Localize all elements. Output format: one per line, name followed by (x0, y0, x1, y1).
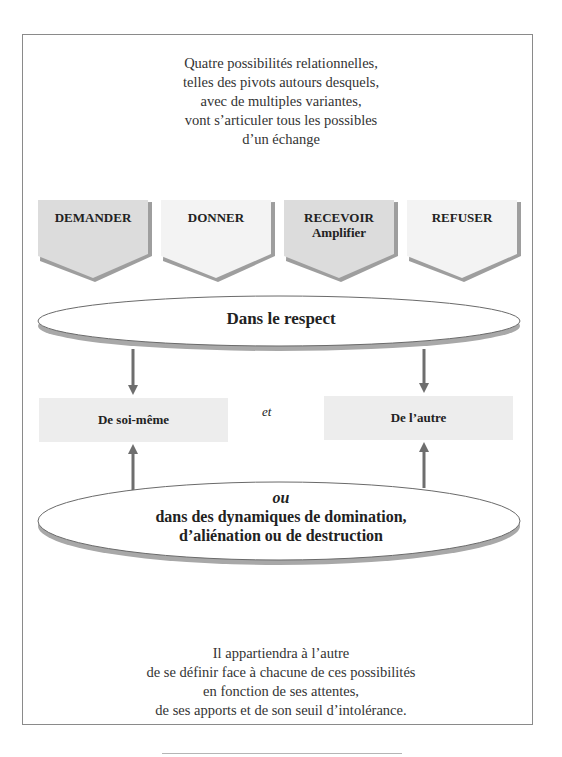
box-self: De soi-même (39, 398, 228, 442)
chevron-title: RECEVOIR (283, 210, 395, 225)
outro-line: en fonction de ses attentes, (0, 682, 562, 701)
chevron-label: DEMANDER (37, 210, 149, 225)
box-other: De l’autre (324, 396, 513, 440)
chevron-refuser: REFUSER (406, 198, 522, 282)
chevron-donner: DONNER (160, 198, 276, 282)
outro-line: de ses apports et de son seuil d’intolér… (0, 701, 562, 720)
ellipse-line: dans des dynamiques de domination, (36, 507, 526, 526)
chevron-subtitle: Amplifier (283, 225, 395, 240)
chevron-demander: DEMANDER (37, 198, 153, 282)
footer-rule (162, 753, 402, 754)
intro-line: telles des pivots autours desquels, (0, 73, 562, 92)
intro-text: Quatre possibilités relationnelles, tell… (0, 54, 562, 149)
arrow-down-icon (128, 349, 138, 395)
intro-line: vont s’articuler tous les possibles (0, 111, 562, 130)
intro-line: d’un échange (0, 130, 562, 149)
intro-line: avec de multiples variantes, (0, 92, 562, 111)
ellipse-line: d’aliénation ou de destruction (36, 526, 526, 545)
box-other-label: De l’autre (391, 410, 447, 426)
ellipse-prefix: ou (36, 488, 526, 507)
outro-line: de se définir face à chacune de ces poss… (0, 663, 562, 682)
chevron-label: RECEVOIR Amplifier (283, 210, 395, 240)
outro-text: Il appartiendra à l’autre de se définir … (0, 644, 562, 720)
ellipse-domination: ou dans des dynamiques de domination, d’… (36, 480, 526, 570)
ellipse-respect: Dans le respect (36, 294, 526, 356)
chevron-label: REFUSER (406, 210, 518, 225)
connector-et: et (262, 404, 271, 420)
ellipse-title: Dans le respect (36, 309, 526, 329)
intro-line: Quatre possibilités relationnelles, (0, 54, 562, 73)
outro-line: Il appartiendra à l’autre (0, 644, 562, 663)
chevron-recevoir: RECEVOIR Amplifier (283, 198, 399, 282)
arrow-down-icon (419, 349, 429, 393)
chevron-label: DONNER (160, 210, 272, 225)
ellipse-text: ou dans des dynamiques de domination, d’… (36, 488, 526, 545)
box-self-label: De soi-même (98, 412, 169, 428)
